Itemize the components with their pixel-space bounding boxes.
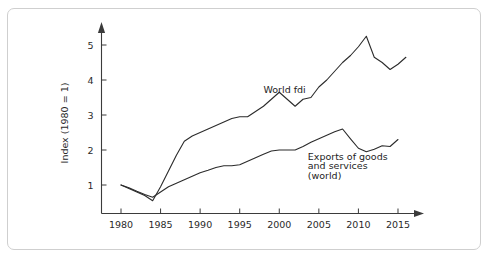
x-tick-label: 2010 xyxy=(346,219,370,230)
y-axis-title: Index (1980 = 1) xyxy=(59,83,70,164)
y-tick-label: 4 xyxy=(87,75,93,86)
x-tick-label: 1980 xyxy=(109,219,133,230)
world-fdi-label: World fdi xyxy=(263,84,305,95)
x-tick-label: 2005 xyxy=(307,219,331,230)
x-axis-ticks: 19801985199019952000200520102015 xyxy=(109,209,410,230)
chart-canvas: 19801985199019952000200520102015 12345 W… xyxy=(0,0,491,260)
series-annotations: World fdiExports of goodsand services(wo… xyxy=(263,84,387,180)
x-tick-label: 2000 xyxy=(267,219,291,230)
y-tick-label: 5 xyxy=(87,40,93,51)
y-axis-ticks: 12345 xyxy=(87,40,106,191)
y-axis-arrowhead xyxy=(98,22,105,33)
x-tick-label: 1990 xyxy=(188,219,212,230)
line-chart-svg: 19801985199019952000200520102015 12345 W… xyxy=(0,0,491,260)
y-tick-label: 2 xyxy=(87,145,93,156)
y-tick-label: 3 xyxy=(87,110,93,121)
axes xyxy=(98,22,424,217)
x-tick-label: 2015 xyxy=(386,219,410,230)
x-axis-arrowhead xyxy=(414,210,424,217)
exports-label-line3: (world) xyxy=(308,170,342,181)
y-axis-title-group: Index (1980 = 1) xyxy=(59,83,70,164)
y-tick-label: 1 xyxy=(87,180,93,191)
x-tick-label: 1995 xyxy=(228,219,252,230)
x-tick-label: 1985 xyxy=(148,219,172,230)
series-line-world-fdi xyxy=(121,36,406,201)
data-series xyxy=(121,36,406,201)
